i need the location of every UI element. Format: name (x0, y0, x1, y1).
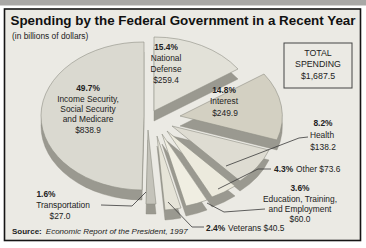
health-percent: 8.2% (313, 118, 333, 128)
transportation-percent: 1.6% (36, 189, 56, 199)
other-label: 4.3%Other $73.6 (274, 164, 341, 174)
education-amount: $60.0 (290, 214, 311, 224)
income-security-amount: $838.9 (75, 125, 101, 135)
income-security-name-line2: Social Security (60, 104, 116, 114)
total-spending-line1: TOTAL (304, 48, 332, 58)
scan-edge-strip (0, 0, 366, 6)
transportation-amount: $27.0 (50, 211, 71, 221)
total-spending-line2: SPENDING (295, 59, 341, 69)
interest-label: 14.8% Interest $249.9 (210, 85, 239, 118)
federal-spending-pie-figure: Spending by the Federal Government in a … (0, 0, 366, 248)
transportation-name: Transportation (36, 200, 90, 210)
other-percent: 4.3% (274, 164, 294, 174)
source-prefix: Source: (12, 227, 42, 236)
total-spending-line3: $1,687.5 (301, 71, 335, 81)
income-security-name-line3: and Medicare (63, 114, 114, 124)
national-defense-label: 15.4% National Defense $259.4 (150, 42, 182, 85)
income-security-percent: 49.7% (76, 83, 100, 93)
veterans-percent: 2.4% (206, 223, 226, 233)
other-rest: Other $73.6 (296, 164, 341, 174)
figure-subtitle: (in billions of dollars) (12, 31, 89, 41)
interest-percent: 14.8% (212, 85, 236, 95)
veterans-rest: Veterans $40.5 (228, 223, 285, 233)
education-percent: 3.6% (290, 183, 310, 193)
education-name-line1: Education, Training, (263, 194, 337, 204)
health-amount: $138.2 (310, 142, 336, 152)
total-spending-box: TOTAL SPENDING $1,687.5 (284, 43, 352, 88)
health-label: 8.2% Health $138.2 (310, 118, 336, 152)
source-text: Economic Report of the President, 1997 (46, 227, 188, 236)
national-defense-name-line1: National (151, 53, 182, 63)
figure-title: Spending by the Federal Government in a … (11, 14, 356, 28)
figure-page: Spending by the Federal Government in a … (0, 0, 366, 248)
interest-name: Interest (210, 96, 239, 106)
health-name: Health (310, 130, 335, 140)
income-security-name-line1: Income Security, (57, 94, 119, 104)
interest-amount: $249.9 (212, 108, 238, 118)
education-name-line2: and Employment (269, 204, 333, 214)
national-defense-name-line2: Defense (150, 64, 182, 74)
veterans-label: 2.4%Veterans $40.5 (206, 223, 285, 233)
source-note: Source:Economic Report of the President,… (12, 227, 188, 236)
national-defense-amount: $259.4 (153, 75, 179, 85)
national-defense-percent: 15.4% (154, 42, 178, 52)
